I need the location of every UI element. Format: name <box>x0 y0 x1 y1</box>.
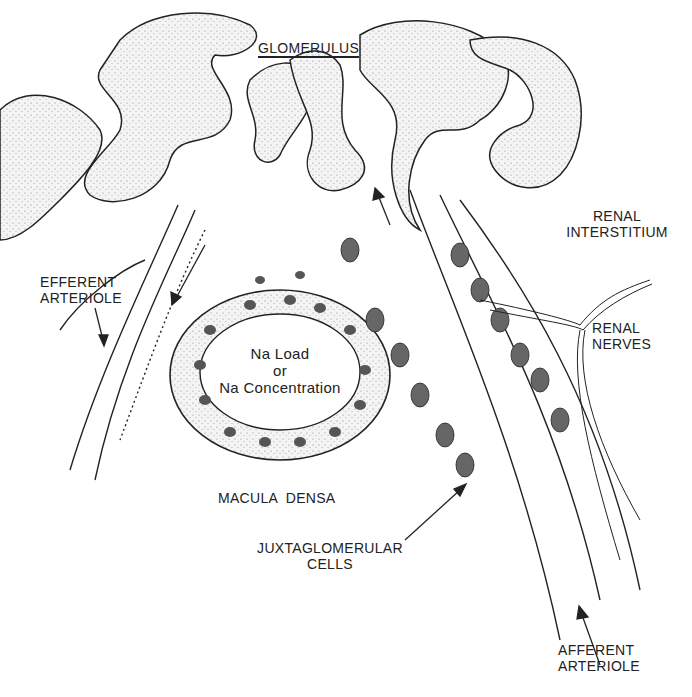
afferent-line2: ARTERIOLE <box>558 658 640 674</box>
na-load-label: Na Load or Na Concentration <box>210 345 350 396</box>
efferent-arteriole-label: EFFERENT ARTERIOLE <box>40 274 122 306</box>
renal-interstitium-label: RENAL INTERSTITIUM <box>552 208 682 240</box>
renal-nerves-line1: RENAL <box>592 320 651 336</box>
afferent-arteriole-label: AFFERENT ARTERIOLE <box>558 642 640 674</box>
jg-line2: CELLS <box>245 556 415 572</box>
glomerulus-title: GLOMERULUS <box>258 40 359 56</box>
na-line1: Na Load <box>210 345 350 362</box>
efferent-line1: EFFERENT <box>40 274 122 290</box>
juxtaglomerular-apparatus-diagram: GLOMERULUS RENAL INTERSTITIUM EFFERENT A… <box>0 0 692 697</box>
macula-densa-label: MACULA DENSA <box>218 490 336 506</box>
afferent-arteriole-vessel <box>410 190 640 640</box>
renal-nerves-line2: NERVES <box>592 336 651 352</box>
na-line2: or <box>210 362 350 379</box>
jg-line1: JUXTAGLOMERULAR <box>245 540 415 556</box>
juxtaglomerular-cells-label: JUXTAGLOMERULAR CELLS <box>245 540 415 572</box>
afferent-line1: AFFERENT <box>558 642 640 658</box>
renal-interstitium-line2: INTERSTITIUM <box>552 224 682 240</box>
efferent-line2: ARTERIOLE <box>40 290 122 306</box>
na-line3: Na Concentration <box>210 379 350 396</box>
renal-nerves-label: RENAL NERVES <box>592 320 651 352</box>
renal-interstitium-line1: RENAL <box>552 208 682 224</box>
